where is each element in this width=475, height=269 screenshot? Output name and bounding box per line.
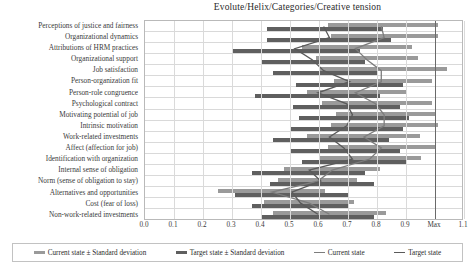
gridline [406,21,407,219]
x-axis-tick-label: 0.1 [169,221,178,229]
category-label: Work-related investments [0,131,141,142]
category-label: Organizational support [0,53,141,64]
gridline [377,21,378,219]
target-state-sd-bar [293,105,400,109]
x-axis-tick-label: 0.2 [198,221,207,229]
x-axis-tick-label: 0.3 [227,221,236,229]
legend-swatch-icon [314,252,325,253]
category-label: Person-organization fit [0,76,141,87]
category-label: Non-work-related investments [0,209,141,220]
x-axis-tick-label: Max [427,221,440,229]
legend-item-current-state[interactable]: Current state [314,249,365,257]
chart-container: Evolute/Helix/Categories/Creative tensio… [0,0,475,269]
chart-row [145,32,462,43]
x-axis-tick-label: 0.9 [401,221,410,229]
category-label: Person-role congruence [0,87,141,98]
chart-row [145,87,462,98]
legend-label: Current state ± Standard deviation [48,249,147,257]
gridline [174,21,175,219]
x-axis-tick-label: 0.4 [256,221,265,229]
chart-row [145,43,462,54]
x-axis-ticks: 0.00.10.20.30.40.50.60.70.80.9Max1.1 [144,221,463,234]
legend-label: Current state [328,249,365,257]
target-state-sd-bar [261,215,374,219]
legend-swatch-icon [34,251,45,254]
category-label: Norm (sense of obligation to stay) [0,176,141,187]
target-state-sd-bar [261,60,365,64]
target-state-sd-bar [267,27,383,31]
chart-row [145,165,462,176]
legend-item-target-state-sd[interactable]: Target state ± Standard deviation [176,249,285,257]
x-axis-tick-label: 1.1 [459,221,468,229]
chart-row [145,110,462,121]
target-state-sd-bar [290,127,403,131]
target-state-sd-bar [273,71,377,75]
chart-row [145,21,462,32]
x-axis-tick-label: 0.7 [343,221,352,229]
target-state-sd-bar [290,149,400,153]
chart-row [145,209,462,219]
chart-row [145,176,462,187]
legend-label: Target state [408,249,441,257]
category-label: Organizational dynamics [0,31,141,42]
gridline [464,21,465,219]
chart-row [145,132,462,143]
target-state-sd-bar [255,94,380,98]
category-label: Affect (affection for job) [0,142,141,153]
category-label: Identification with organization [0,153,141,164]
plot-area [144,20,463,220]
target-state-sd-bar [252,204,348,208]
chart-row [145,65,462,76]
chart-legend: Current state ± Standard deviationTarget… [12,243,463,262]
chart-title: Evolute/Helix/Categories/Creative tensio… [0,2,475,12]
category-label: Internal sense of obligation [0,164,141,175]
category-label: Job satisfaction [0,64,141,75]
legend-swatch-icon [176,251,187,254]
chart-row [145,143,462,154]
category-axis-labels: Perceptions of justice and fairnessOrgan… [0,20,141,220]
chart-row [145,121,462,132]
chart-row [145,98,462,109]
chart-row [145,54,462,65]
chart-row [145,187,462,198]
x-axis-tick-label: 0.0 [140,221,149,229]
target-state-sd-bar [232,49,360,53]
gridline [319,21,320,219]
legend-swatch-icon [394,252,405,253]
category-label: Attributions of HRM practices [0,42,141,53]
gridline [290,21,291,219]
chart-row [145,76,462,87]
category-label: Motivating potential of job [0,109,141,120]
category-label: Alternatives and opportunities [0,187,141,198]
category-label: Cost (fear of loss) [0,198,141,209]
target-state-sd-bar [267,38,392,42]
target-state-sd-bar [302,160,406,164]
max-gridline [435,21,436,219]
gridline [203,21,204,219]
x-axis-tick-label: 0.5 [285,221,294,229]
legend-item-current-state-sd[interactable]: Current state ± Standard deviation [34,249,147,257]
category-label: Psychological contract [0,98,141,109]
gridline [348,21,349,219]
target-state-sd-bar [299,116,409,120]
target-state-sd-bar [270,182,374,186]
x-axis-tick-label: 0.6 [314,221,323,229]
target-state-sd-bar [235,193,348,197]
legend-item-target-state[interactable]: Target state [394,249,441,257]
chart-row [145,154,462,165]
gridline [261,21,262,219]
x-axis-tick-label: 0.8 [372,221,381,229]
legend-label: Target state ± Standard deviation [190,249,285,257]
plot-rows [145,21,462,219]
category-label: Intrinsic motivation [0,120,141,131]
category-label: Perceptions of justice and fairness [0,20,141,31]
target-state-sd-bar [296,83,403,87]
gridline [232,21,233,219]
chart-row [145,198,462,209]
